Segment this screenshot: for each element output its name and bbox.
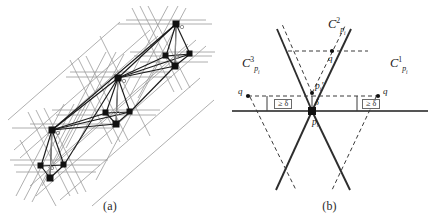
cone-2-sup: 2 — [336, 16, 340, 25]
cone-3-sub: pi — [254, 64, 259, 73]
node — [115, 75, 122, 82]
node — [127, 109, 133, 115]
point-markers — [246, 49, 380, 115]
node — [103, 110, 109, 116]
node — [47, 175, 54, 182]
cone-2-sub: pi — [340, 25, 345, 34]
q-left-label: q — [238, 87, 243, 96]
panel-a: (a) — [0, 0, 220, 218]
pi-prime-label: pi' — [315, 82, 323, 93]
panel-b-caption: (b) — [220, 199, 439, 214]
cone-3-sup: 3 — [250, 55, 254, 64]
node — [49, 127, 56, 134]
node — [172, 63, 179, 70]
point-q-right — [376, 94, 380, 98]
cone-1-sup: 1 — [398, 55, 402, 64]
node — [173, 21, 180, 28]
node — [187, 51, 193, 57]
node — [61, 162, 67, 168]
node — [163, 53, 169, 59]
figure-root: (a) — [0, 0, 439, 218]
panel-b: C2pi C3pi C1pi q q q pi' pi ≥ δ ≥ δ δ (b… — [220, 0, 439, 218]
point-pi — [308, 107, 316, 115]
point-q-left — [246, 94, 250, 98]
node — [113, 121, 120, 128]
delta-center-label: δ — [315, 99, 319, 107]
line-arrangement — [8, 6, 215, 206]
delta-right-label: ≥ δ — [362, 99, 380, 109]
q-top-label: q — [328, 54, 333, 63]
point-pi-prime — [310, 91, 314, 95]
cone-1-sub: pi — [402, 64, 407, 73]
pi-prime-mark: ' — [321, 81, 323, 91]
node — [38, 163, 44, 169]
q-right-label: q — [383, 87, 388, 96]
cluster-spines — [50, 24, 176, 178]
panel-a-caption: (a) — [0, 199, 220, 214]
panel-a-diagram — [0, 0, 220, 218]
delta-left-label: ≥ δ — [274, 99, 292, 109]
cone-3-label: C3pi — [242, 56, 260, 75]
pi-label: pi — [312, 118, 318, 129]
cone-1-label: C1pi — [390, 56, 408, 75]
measurement-guides — [248, 51, 378, 96]
cone-2-label: C2pi — [328, 17, 346, 36]
